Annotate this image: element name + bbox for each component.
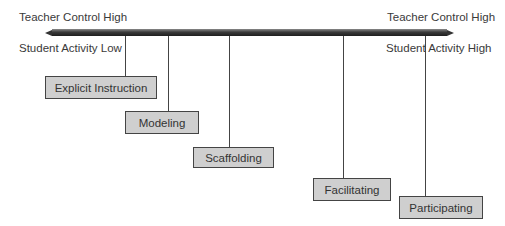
stage-scaffolding: Scaffolding bbox=[193, 147, 274, 168]
stage-explicit-instruction: Explicit Instruction bbox=[45, 76, 157, 99]
connector-line bbox=[425, 36, 426, 196]
left-bottom-label: Student Activity Low bbox=[19, 42, 122, 54]
right-top-label: Teacher Control High bbox=[387, 11, 495, 23]
connector-line bbox=[229, 36, 230, 147]
arrow-right-icon bbox=[447, 30, 454, 36]
stage-participating: Participating bbox=[399, 196, 483, 219]
arrow-left-icon bbox=[45, 30, 52, 36]
connector-line bbox=[168, 36, 169, 111]
connector-line bbox=[343, 36, 344, 178]
connector-line bbox=[125, 36, 126, 76]
right-bottom-label: Student Activity High bbox=[386, 42, 491, 54]
stage-facilitating: Facilitating bbox=[313, 178, 391, 201]
stage-modeling: Modeling bbox=[125, 111, 199, 134]
left-top-label: Teacher Control High bbox=[19, 11, 127, 23]
continuum-bar bbox=[52, 29, 447, 36]
